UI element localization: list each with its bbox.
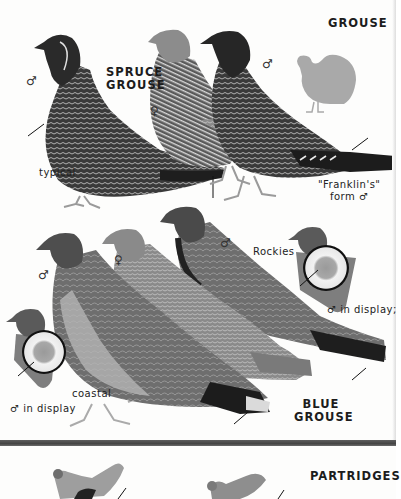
label-franklins-form: "Franklin's" form ♂ [318, 179, 380, 203]
label-typical: typical [39, 167, 76, 178]
male-symbol: ♂ [38, 268, 49, 282]
label-coastal: coastal [72, 388, 111, 399]
label-male-in-display-right: ♂ in display; [327, 304, 397, 315]
partridges-illustrations [53, 463, 284, 499]
label-rockies: Rockies [253, 246, 295, 257]
page-edge-shadow [392, 0, 396, 440]
male-symbol: ♂ [262, 57, 273, 71]
section-title-grouse: GROUSE [328, 17, 388, 30]
blue-grouse-title-line2: GROUSE [294, 411, 348, 424]
label-franklins-line1: "Franklin's" [318, 179, 380, 191]
female-symbol: ♀ [114, 253, 123, 267]
grouse-display-silhouette [297, 55, 356, 112]
label-franklins-line2: form ♂ [318, 191, 380, 203]
spruce-grouse-title-line2: GROUSE [106, 79, 158, 92]
label-male-in-display-left: ♂ in display [10, 403, 76, 414]
male-symbol: ♂ [220, 236, 231, 250]
blue-grouse-title: BLUE GROUSE [294, 398, 348, 424]
spruce-grouse-franklins-male-illustration [200, 31, 395, 200]
female-symbol: ♀ [150, 104, 159, 118]
section-title-partridges: PARTRIDGES [310, 470, 401, 483]
section-divider [0, 440, 396, 446]
spruce-grouse-title: SPRUCE GROUSE [106, 66, 158, 92]
male-symbol: ♂ [26, 74, 37, 88]
